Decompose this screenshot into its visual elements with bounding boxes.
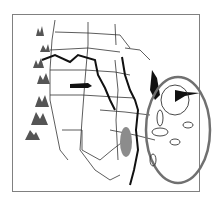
state-borders	[50, 20, 155, 180]
gray-region	[120, 127, 132, 157]
mountain-icons	[25, 26, 50, 140]
river-segment-icon	[70, 83, 92, 88]
lake-dark-shape	[175, 90, 200, 102]
map-canvas	[0, 0, 224, 201]
river-system	[42, 55, 138, 185]
